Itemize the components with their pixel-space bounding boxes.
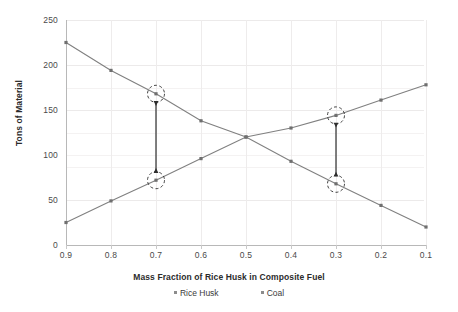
- data-point-marker: [289, 126, 292, 129]
- data-point-marker: [379, 204, 382, 207]
- chart-container: 050100150200250 0.90.80.70.60.50.40.30.2…: [0, 0, 458, 312]
- data-point-marker: [379, 99, 382, 102]
- x-axis-title: Mass Fraction of Rice Husk in Composite …: [0, 272, 458, 282]
- data-point-marker: [154, 92, 157, 95]
- legend-item-rice-husk[interactable]: Rice Husk: [174, 288, 219, 298]
- data-point-marker: [289, 160, 292, 163]
- data-point-marker: [64, 41, 67, 44]
- legend-label: Coal: [267, 288, 284, 298]
- data-point-marker: [64, 221, 67, 224]
- data-point-marker: [244, 135, 247, 138]
- legend-label: Rice Husk: [180, 288, 219, 298]
- chart-plot-svg: [0, 0, 458, 312]
- chart-legend: Rice Husk Coal: [0, 288, 458, 298]
- data-point-marker: [424, 225, 427, 228]
- data-point-marker: [199, 157, 202, 160]
- legend-swatch-icon: [174, 291, 177, 294]
- legend-item-coal[interactable]: Coal: [261, 288, 284, 298]
- series-line-rice-husk: [66, 85, 426, 223]
- data-point-marker: [424, 83, 427, 86]
- legend-swatch-icon: [261, 291, 264, 294]
- data-point-marker: [109, 69, 112, 72]
- data-point-marker: [334, 182, 337, 185]
- data-point-marker: [334, 114, 337, 117]
- y-axis-title: Tons of Material: [14, 58, 24, 168]
- data-point-marker: [154, 179, 157, 182]
- data-point-marker: [109, 199, 112, 202]
- series-line-coal: [66, 43, 426, 228]
- data-point-marker: [199, 119, 202, 122]
